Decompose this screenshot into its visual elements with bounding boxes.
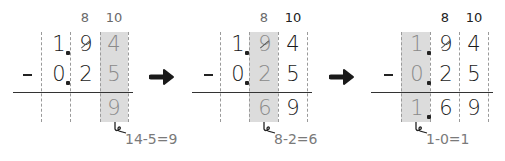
step-2-panel: 8 10 1 9 4 0 2 5 6 9 8-2=6 [180,0,325,161]
column-guide [128,32,129,122]
minus-sign [384,74,393,76]
step-note: 8-2=6 [274,131,318,147]
decimal-point [427,81,431,85]
borrow-mark-hundredths: 10 [100,10,128,26]
borrow-mark-tenths: 8 [250,10,278,26]
borrow-mark-tenths: 8 [71,10,99,26]
sum-line [13,92,133,93]
borrow-mark-hundredths: 10 [279,10,307,26]
bottom-tenths-digit: 2 [251,62,279,86]
result-tenths-digit: 6 [432,96,460,120]
decimal-point [427,115,431,119]
column-guide [488,32,489,122]
result-hundredths-digit: 9 [100,96,128,120]
step-note: 14-5=9 [125,131,177,147]
step-1-panel: 8 10 1 9 4 0 2 5 9 14-5=9 [0,0,145,161]
decimal-point [66,51,70,55]
column-guide [41,32,42,122]
minus-sign [23,74,32,76]
decimal-point [427,51,431,55]
result-hundredths-digit: 9 [460,96,488,120]
decimal-point [245,51,249,55]
bottom-tenths-digit: 2 [432,62,460,86]
borrow-mark-tenths: 8 [431,10,459,26]
bottom-tenths-digit: 2 [72,62,100,86]
column-guide [307,32,308,122]
top-hundredths-digit: 4 [100,32,128,56]
top-hundredths-digit: 4 [279,32,307,56]
bottom-hundredths-digit: 5 [100,62,128,86]
result-hundredths-digit: 9 [279,96,307,120]
decimal-point [66,81,70,85]
borrow-mark-hundredths: 10 [460,10,488,26]
step-3-panel: 8 10 1 9 4 0 2 5 1 6 9 1-0=1 [360,0,505,161]
minus-sign [204,74,213,76]
sum-line [192,92,312,93]
column-guide [220,32,221,122]
right-arrow-icon [149,68,177,86]
column-guide [401,32,402,122]
decimal-point [245,81,249,85]
sum-line [371,92,493,93]
top-hundredths-digit: 4 [460,32,488,56]
step-note: 1-0=1 [426,131,470,147]
result-tenths-digit: 6 [251,96,279,120]
right-arrow-icon [329,68,357,86]
bottom-hundredths-digit: 5 [279,62,307,86]
bottom-hundredths-digit: 5 [460,62,488,86]
